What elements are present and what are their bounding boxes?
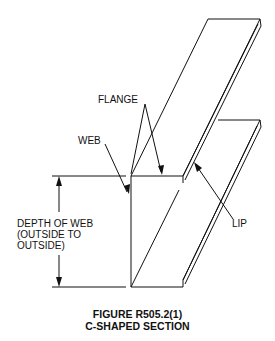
lip-leader (196, 165, 233, 219)
arrow-down-icon (56, 277, 62, 287)
c-shaped-section-figure: FLANGE WEB LIP DEPTH OF WEB (OUTSIDE TO … (0, 0, 275, 341)
figure-title: C-SHAPED SECTION (0, 320, 275, 332)
depth-label-2: (OUTSIDE TO (17, 229, 81, 240)
arrowhead-icon (158, 165, 164, 175)
flange-leader-1 (145, 104, 161, 172)
top-flange (131, 19, 261, 180)
depth-label-3: OUTSIDE) (17, 240, 65, 251)
figure-number: FIGURE R505.2(1) (0, 308, 275, 320)
lip-label: LIP (232, 218, 247, 229)
arrowhead-icon (124, 184, 130, 194)
flange-label: FLANGE (98, 94, 138, 105)
arrowhead-icon (194, 162, 202, 172)
flange-leader-2 (131, 104, 145, 174)
arrow-up-icon (56, 176, 62, 186)
depth-label-1: DEPTH OF WEB (17, 218, 93, 229)
web-leader (105, 144, 127, 192)
section-drawing (0, 0, 275, 341)
web-label: WEB (78, 135, 101, 146)
web (131, 176, 183, 287)
